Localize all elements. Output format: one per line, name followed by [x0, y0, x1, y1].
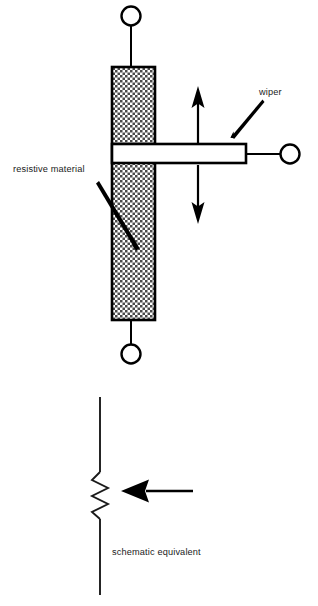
pictorial-view-group: wiper resistive material [13, 7, 300, 364]
wiper-contact-arm [112, 144, 246, 163]
potentiometer-diagram: wiper resistive material sche [0, 0, 318, 606]
down-travel-arrow [192, 165, 205, 224]
up-travel-arrow [192, 86, 205, 145]
schematic-view-group: schematic equivalent [92, 397, 201, 595]
diagram-canvas: wiper resistive material sche [0, 0, 318, 606]
wiper-leader-line [231, 100, 265, 139]
resistive-material-label: resistive material [13, 164, 85, 174]
resistive-element-body [112, 67, 155, 320]
top-terminal-circle [122, 7, 141, 26]
wiper-label: wiper [258, 87, 282, 97]
wiper-tap-arrow [121, 480, 193, 503]
bottom-terminal-circle [122, 345, 141, 364]
wiper-terminal-circle [281, 145, 300, 164]
schematic-equivalent-label: schematic equivalent [112, 547, 201, 557]
resistor-zigzag [92, 472, 108, 519]
